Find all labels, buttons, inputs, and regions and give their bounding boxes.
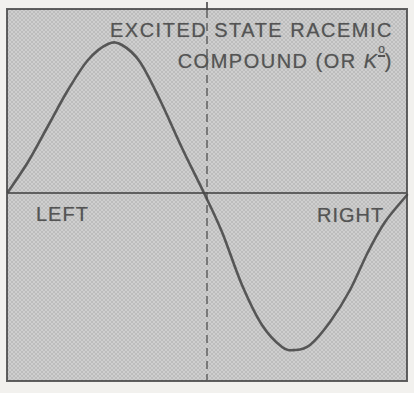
figure-canvas: EXCITED STATE RACEMIC COMPOUND (OR Ko) L… [0, 0, 414, 393]
chart-title-line2: COMPOUND (OR Ko) [110, 46, 393, 77]
chart-title-line2-prefix: COMPOUND (OR [178, 50, 364, 72]
axis-label-right: RIGHT [317, 204, 384, 227]
chart-title-line2-suffix: ) [385, 50, 393, 72]
chart-title: EXCITED STATE RACEMIC COMPOUND (OR Ko) [110, 15, 393, 77]
k-superscript-zero: o [378, 44, 385, 57]
axis-label-left: LEFT [36, 203, 89, 226]
k-symbol: K [364, 50, 377, 72]
chart-title-line1: EXCITED STATE RACEMIC [110, 15, 393, 46]
